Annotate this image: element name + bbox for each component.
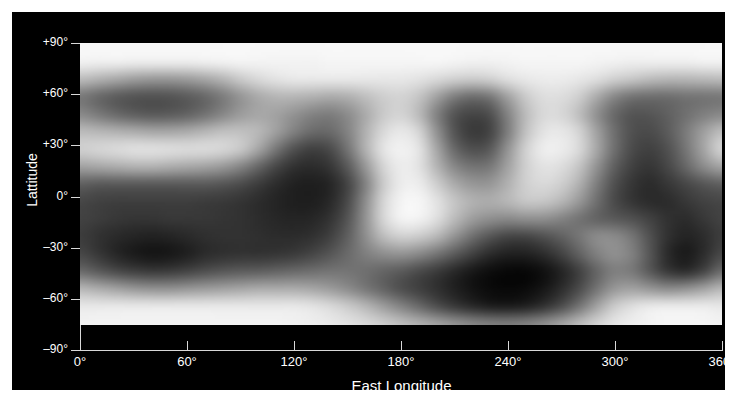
y-tick-mark xyxy=(71,350,80,351)
y-tick-mark xyxy=(71,145,80,146)
x-tick-label: 180° xyxy=(371,354,431,369)
y-tick-mark xyxy=(71,94,80,95)
x-axis-title: East Longitude xyxy=(80,377,723,394)
x-tick-mark xyxy=(615,341,616,350)
x-tick-label: 300° xyxy=(585,354,645,369)
albedo-map-image xyxy=(80,43,722,325)
x-tick-label: 240° xyxy=(478,354,538,369)
x-tick-mark xyxy=(80,341,81,350)
x-tick-mark xyxy=(722,341,723,350)
albedo-raster xyxy=(80,43,722,325)
x-tick-label: 360° xyxy=(692,354,739,369)
y-axis-title: Lattitude xyxy=(24,134,40,226)
x-tick-mark xyxy=(294,341,295,350)
y-tick-mark xyxy=(71,197,80,198)
y-tick-label: –30° xyxy=(22,240,68,254)
y-tick-label: +90° xyxy=(22,35,68,49)
x-axis-line xyxy=(80,350,723,351)
plot-panel: +90°+60°+30°0°–30°–60°–90° 0°60°120°180°… xyxy=(12,12,725,390)
y-tick-label: –60° xyxy=(22,291,68,305)
x-tick-mark xyxy=(401,341,402,350)
x-tick-label: 120° xyxy=(264,354,324,369)
y-tick-mark xyxy=(71,248,80,249)
x-tick-mark xyxy=(508,341,509,350)
x-tick-mark xyxy=(187,341,188,350)
x-tick-label: 0° xyxy=(50,354,110,369)
y-tick-label: +60° xyxy=(22,86,68,100)
x-tick-label: 60° xyxy=(157,354,217,369)
heatmap-svg xyxy=(80,43,722,325)
figure-canvas: +90°+60°+30°0°–30°–60°–90° 0°60°120°180°… xyxy=(0,0,739,411)
y-tick-mark xyxy=(71,299,80,300)
y-tick-mark xyxy=(71,43,80,44)
